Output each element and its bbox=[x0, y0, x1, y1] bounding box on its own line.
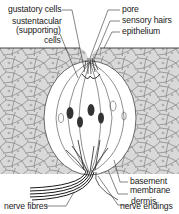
label-epithelium: epithelium bbox=[122, 27, 160, 36]
label-gustatory-cells: gustatory cells bbox=[8, 5, 61, 14]
label-sustentacular-2: (supporting) bbox=[16, 26, 61, 35]
label-sustentacular-3: cells bbox=[44, 36, 61, 45]
label-pore: pore bbox=[122, 5, 139, 14]
label-membrane: membrane bbox=[130, 186, 170, 195]
label-sensory-hairs: sensory hairs bbox=[122, 16, 172, 25]
label-nerve-endings: nerve endings bbox=[120, 202, 173, 211]
label-nerve-fibres: nerve fibres bbox=[4, 202, 48, 211]
